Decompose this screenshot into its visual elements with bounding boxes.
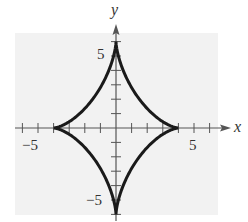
x-tick-label-5: 5 [189, 138, 197, 153]
x-tick-label-neg5: −5 [22, 138, 38, 153]
y-tick-label-5: 5 [97, 47, 105, 62]
y-axis-label: y [111, 2, 118, 18]
y-tick-label-neg5: −5 [86, 193, 102, 208]
chart-canvas [0, 0, 248, 222]
x-axis-label: x [234, 119, 241, 135]
